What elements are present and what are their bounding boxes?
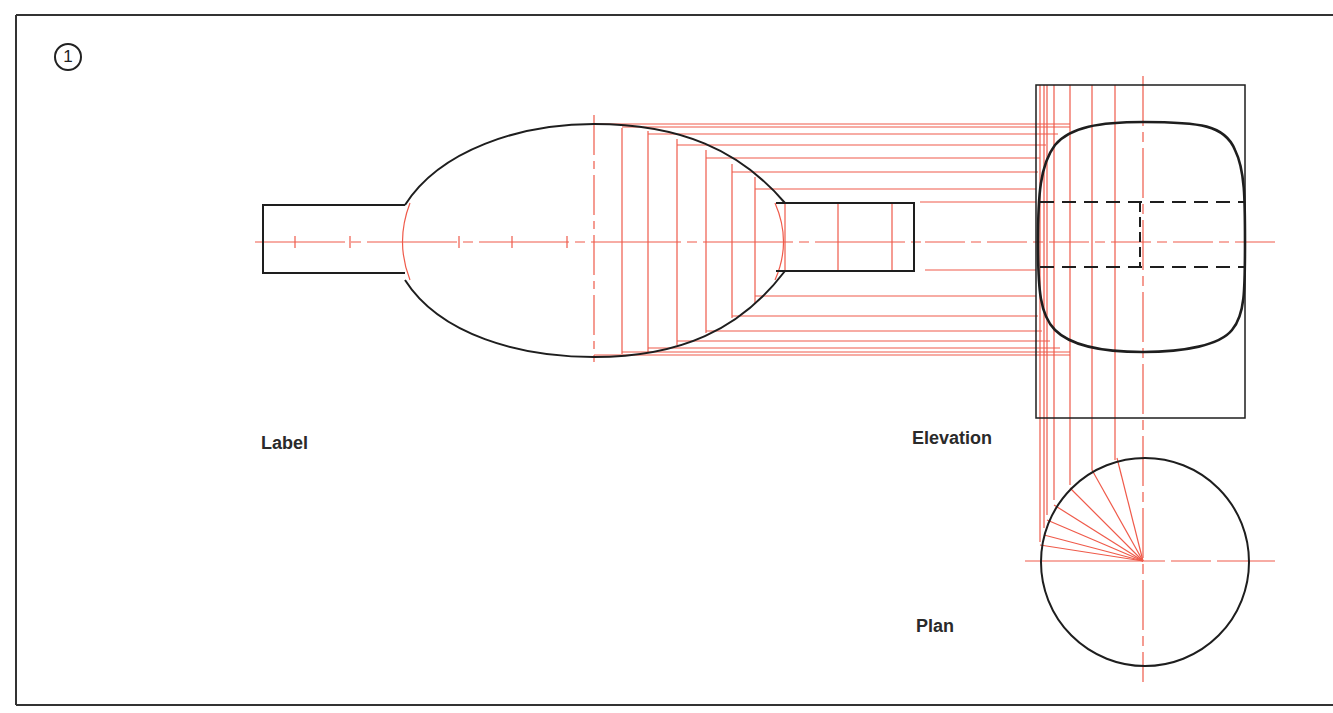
step-number-badge: 1: [54, 43, 82, 71]
plan-view-outline: [1041, 458, 1249, 666]
frame-border: [16, 15, 1333, 705]
elevation-view-caption: Elevation: [912, 428, 992, 449]
technical-drawing: [0, 0, 1333, 713]
plan-view-caption: Plan: [916, 616, 954, 637]
label-view-caption: Label: [261, 433, 308, 454]
construction-lines: [255, 76, 1275, 682]
label-view-outline: [263, 124, 914, 357]
elevation-view-outline: [1036, 85, 1245, 418]
